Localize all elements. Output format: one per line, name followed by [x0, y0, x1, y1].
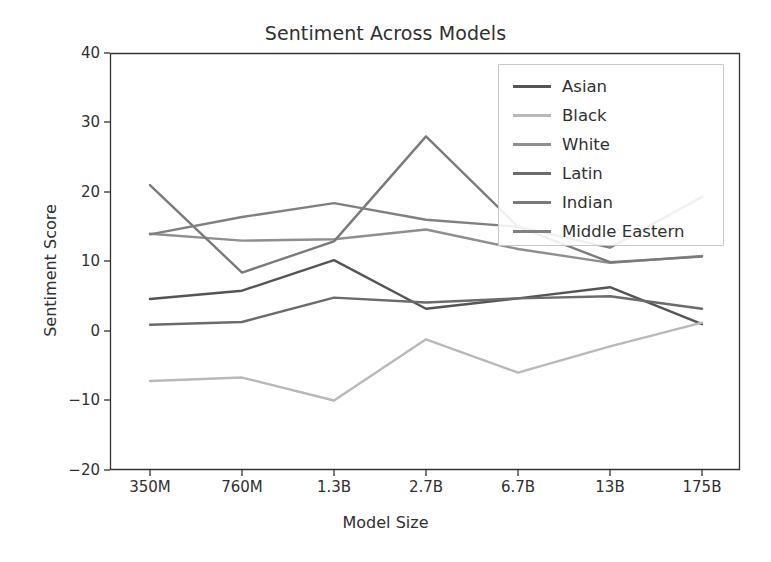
x-tick-marks [150, 470, 702, 476]
legend-swatch-middle-eastern [513, 230, 551, 233]
legend-swatch-asian [513, 85, 551, 88]
y-tick-marks [104, 53, 110, 470]
legend-swatch-indian [513, 201, 551, 204]
legend-item-middle-eastern: Middle Eastern [499, 216, 725, 246]
series-line-asian [150, 260, 702, 324]
legend-item-white: White [499, 129, 725, 159]
legend-swatch-white [513, 143, 551, 146]
legend-label-white: White [562, 135, 610, 154]
legend-label-latin: Latin [562, 164, 603, 183]
chart-legend: Asian Black White Latin Indian Middle Ea… [498, 64, 724, 246]
chart-figure: Sentiment Across Models Sentiment Score … [0, 0, 771, 562]
legend-item-indian: Indian [499, 187, 725, 217]
legend-swatch-black [513, 114, 551, 117]
legend-swatch-latin [513, 172, 551, 175]
legend-label-indian: Indian [562, 193, 613, 212]
legend-label-asian: Asian [562, 77, 607, 96]
legend-item-asian: Asian [499, 71, 725, 101]
series-line-black [150, 323, 702, 401]
legend-item-latin: Latin [499, 158, 725, 188]
series-line-latin [150, 296, 702, 324]
legend-label-middle-eastern: Middle Eastern [562, 222, 684, 241]
legend-item-black: Black [499, 100, 725, 130]
legend-label-black: Black [562, 106, 607, 125]
